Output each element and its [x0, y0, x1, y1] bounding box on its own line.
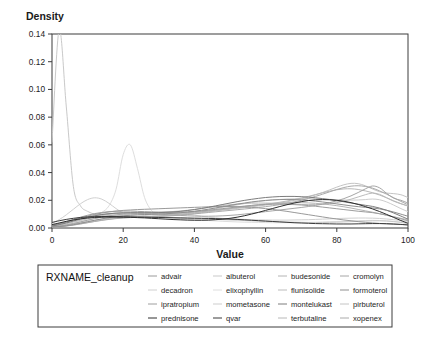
y-tick-label: 0.00: [29, 223, 46, 233]
y-tick-label: 0.14: [29, 29, 46, 39]
legend-label-prednisone: prednisone: [161, 314, 199, 323]
legend-label-budesonide: budesonide: [291, 272, 330, 281]
legend-label-albuterol: albuterol: [226, 272, 255, 281]
legend-label-xopenex: xopenex: [353, 314, 382, 323]
chart-canvas: Density0.000.020.040.060.080.100.120.140…: [0, 0, 432, 339]
density-plot-figure: Density0.000.020.040.060.080.100.120.140…: [0, 0, 432, 339]
legend-label-montelukast: montelukast: [291, 300, 333, 309]
legend-label-qvar: qvar: [226, 314, 241, 323]
legend-title: RXNAME_cleanup: [46, 271, 134, 283]
y-tick-label: 0.06: [29, 140, 46, 150]
legend-label-pirbuterol: pirbuterol: [353, 300, 385, 309]
legend-label-cromolyn: cromolyn: [353, 272, 384, 281]
y-tick-label: 0.02: [29, 195, 46, 205]
plot-frame: [52, 34, 408, 228]
x-axis-title: Value: [216, 248, 244, 260]
legend-label-advair: advair: [161, 272, 182, 281]
legend-label-mometasone: mometasone: [226, 300, 270, 309]
legend-label-terbutaline: terbutaline: [291, 314, 326, 323]
y-tick-label: 0.10: [29, 84, 46, 94]
x-tick-label: 0: [50, 235, 55, 245]
x-tick-label: 60: [261, 235, 271, 245]
legend-label-elixophyllin: elixophyllin: [226, 286, 263, 295]
x-tick-label: 100: [401, 235, 415, 245]
y-tick-label: 0.04: [29, 168, 46, 178]
y-tick-label: 0.12: [29, 57, 46, 67]
x-tick-label: 20: [119, 235, 129, 245]
legend-label-formoterol: formoterol: [353, 286, 387, 295]
y-axis-title: Density: [26, 10, 64, 22]
y-tick-label: 0.08: [29, 112, 46, 122]
x-tick-label: 40: [190, 235, 200, 245]
legend-label-flunisolide: flunisolide: [291, 286, 325, 295]
density-curves: [52, 29, 408, 227]
legend-label-ipratropium: ipratropium: [161, 300, 199, 309]
x-tick-label: 80: [332, 235, 342, 245]
legend-label-decadron: decadron: [161, 286, 193, 295]
